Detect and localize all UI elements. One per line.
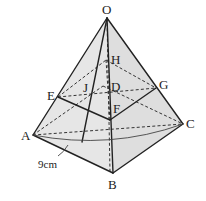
label-O: O: [102, 2, 111, 17]
label-C: C: [186, 116, 195, 131]
label-J: J: [83, 80, 88, 95]
label-H: H: [111, 52, 120, 67]
label-A: A: [21, 128, 31, 143]
label-F: F: [113, 101, 120, 116]
label-G: G: [159, 77, 168, 92]
label-B: B: [108, 177, 117, 192]
measurement-label: 9cm: [38, 158, 57, 170]
pyramid-face-left: [33, 18, 113, 173]
pyramid-diagram: O H D J E G F A C B 9cm: [0, 0, 206, 201]
label-D: D: [111, 79, 120, 94]
label-E: E: [47, 88, 55, 103]
